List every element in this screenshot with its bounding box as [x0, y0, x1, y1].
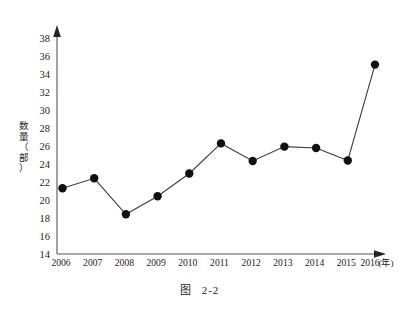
data-point-marker[interactable]	[153, 192, 161, 200]
data-point-marker[interactable]	[280, 142, 288, 150]
data-series-line	[63, 65, 376, 215]
y-axis-arrow-icon	[53, 25, 61, 37]
y-axis	[53, 25, 61, 254]
data-point-marker[interactable]	[185, 169, 193, 177]
x-tick-label: 2015	[337, 257, 356, 268]
y-tick-labels: 14 16 18 20 22 24 26 28 30 32 34 36 38	[40, 33, 51, 260]
figure-caption: 图2-2	[0, 281, 399, 297]
y-tick-label: 26	[40, 141, 51, 152]
y-tick-label: 16	[40, 231, 51, 242]
y-tick-label: 22	[40, 177, 51, 188]
y-axis-title: 数 量 （ 部 ）	[19, 120, 29, 173]
figure-caption-prefix: 图	[180, 284, 192, 296]
figure-caption-number: 2-2	[202, 284, 220, 296]
x-tick-label: 2013	[273, 257, 292, 268]
y-axis-title-char: （	[19, 141, 29, 152]
figure-container: 14 16 18 20 22 24 26 28 30 32 34 36 38 数…	[0, 0, 399, 311]
y-tick-label: 38	[40, 33, 51, 44]
data-point-marker[interactable]	[344, 156, 352, 164]
y-tick-label: 34	[40, 69, 51, 80]
data-point-marker[interactable]	[90, 174, 98, 182]
y-axis-title-char: 量	[19, 132, 29, 142]
data-points	[58, 60, 379, 218]
data-point-marker[interactable]	[371, 60, 379, 68]
x-tick-label: 2009	[147, 257, 166, 268]
y-tick-label: 24	[40, 159, 51, 170]
x-axis-unit-label: (年)	[378, 257, 393, 268]
y-axis-title-char: 部	[19, 152, 29, 163]
x-tick-label: 2007	[83, 257, 102, 268]
y-tick-label: 30	[40, 105, 51, 116]
data-point-marker[interactable]	[122, 210, 130, 218]
data-point-marker[interactable]	[58, 184, 66, 192]
y-axis-title-char: 数	[19, 120, 29, 131]
data-point-marker[interactable]	[217, 139, 225, 147]
y-tick-label: 20	[40, 195, 51, 206]
x-tick-label: 2012	[242, 257, 261, 268]
y-tick-label: 18	[40, 213, 51, 224]
x-tick-labels: 2006 2007 2008 2009 2010 2011 2012 2013 …	[51, 257, 393, 268]
y-tick-label: 32	[40, 87, 51, 98]
x-tick-label: 2008	[115, 257, 134, 268]
data-point-marker[interactable]	[249, 157, 257, 165]
data-point-marker[interactable]	[312, 144, 320, 152]
x-tick-label: 2014	[305, 257, 324, 268]
x-tick-label: 2010	[178, 257, 197, 268]
x-tick-label: 2011	[210, 257, 229, 268]
y-axis-title-char: ）	[19, 162, 29, 173]
line-chart: 14 16 18 20 22 24 26 28 30 32 34 36 38 数…	[0, 0, 399, 311]
x-tick-label: 2006	[51, 257, 70, 268]
y-tick-label: 36	[40, 51, 51, 62]
x-tick-label: 2016	[360, 257, 379, 268]
y-tick-label: 14	[40, 249, 51, 260]
y-tick-label: 28	[40, 123, 51, 134]
